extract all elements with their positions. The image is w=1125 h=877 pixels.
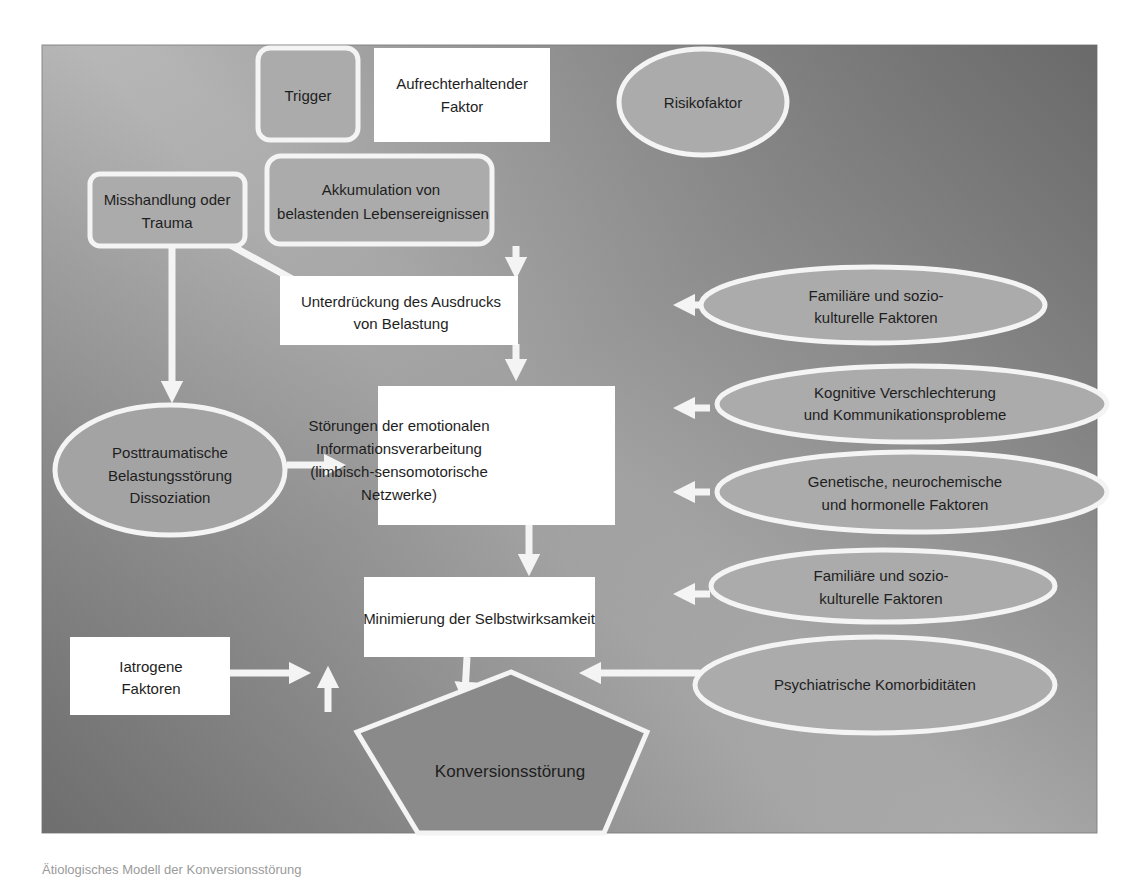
node-familiaere-2: Familiäre und sozio- kulturelle Faktoren bbox=[711, 550, 1055, 622]
unterdrueckung-line1: Unterdrückung des Ausdrucks bbox=[301, 293, 501, 310]
legend-risk-label: Risikofaktor bbox=[664, 94, 742, 111]
akkumulation-line2: belastenden Lebensereignissen bbox=[277, 205, 489, 222]
posttraumatische-line3: Dissoziation bbox=[130, 489, 211, 506]
legend-trigger: Trigger bbox=[258, 48, 358, 140]
genetische-line2: und hormonelle Faktoren bbox=[822, 496, 989, 513]
stoerungen-line1: Störungen der emotionalen bbox=[309, 417, 490, 434]
legend-maintaining-factor: Aufrechterhaltender Faktor bbox=[374, 48, 550, 142]
legend-maintaining-label-line1: Aufrechterhaltender bbox=[396, 75, 528, 92]
legend-trigger-label: Trigger bbox=[285, 87, 332, 104]
familiaere2-line1: Familiäre und sozio- bbox=[813, 567, 948, 584]
node-iatrogene: Iatrogene Faktoren bbox=[70, 637, 230, 715]
psychiatrische-line1: Psychiatrische Komorbiditäten bbox=[774, 676, 976, 693]
posttraumatische-line1: Posttraumatische bbox=[112, 444, 228, 461]
node-minimierung: Minimierung der Selbstwirksamkeit bbox=[363, 577, 596, 657]
iatrogene-line1: Iatrogene bbox=[119, 658, 182, 675]
misshandlung-line2: Trauma bbox=[141, 214, 193, 231]
node-familiaere-1: Familiäre und sozio- kulturelle Faktoren bbox=[701, 267, 1045, 343]
legend-risk-factor: Risikofaktor bbox=[619, 49, 787, 155]
familiaere2-line2: kulturelle Faktoren bbox=[819, 590, 942, 607]
familiaere1-line2: kulturelle Faktoren bbox=[814, 309, 937, 326]
misshandlung-line1: Misshandlung oder bbox=[104, 191, 231, 208]
stoerungen-line3: (limbisch-sensomotorische bbox=[310, 463, 488, 480]
legend-maintaining-label-line2: Faktor bbox=[441, 98, 484, 115]
konversion-label: Konversionsstörung bbox=[435, 762, 585, 781]
node-posttraumatische: Posttraumatische Belastungsstörung Disso… bbox=[55, 405, 285, 535]
node-genetische: Genetische, neurochemische und hormonell… bbox=[717, 452, 1107, 532]
node-kognitive: Kognitive Verschlechterung und Kommunika… bbox=[717, 366, 1107, 442]
genetische-line1: Genetische, neurochemische bbox=[808, 473, 1002, 490]
stoerungen-line4: Netzwerke) bbox=[361, 486, 437, 503]
figure-caption: Ätiologisches Modell der Konversionsstör… bbox=[42, 862, 301, 877]
iatrogene-line2: Faktoren bbox=[121, 680, 180, 697]
kognitive-line1: Kognitive Verschlechterung bbox=[814, 384, 996, 401]
akkumulation-line1: Akkumulation von bbox=[322, 181, 440, 198]
unterdrueckung-line2: von Belastung bbox=[353, 315, 448, 332]
stoerungen-line2: Informationsverarbeitung bbox=[316, 440, 482, 457]
node-akkumulation: Akkumulation von belastenden Lebensereig… bbox=[267, 156, 492, 244]
minimierung-line1: Minimierung der Selbstwirksamkeit bbox=[363, 610, 596, 627]
kognitive-line2: und Kommunikationsprobleme bbox=[804, 406, 1007, 423]
node-psychiatrische: Psychiatrische Komorbiditäten bbox=[695, 637, 1055, 733]
familiaere1-line1: Familiäre und sozio- bbox=[808, 287, 943, 304]
node-unterdrueckung: Unterdrückung des Ausdrucks von Belastun… bbox=[280, 276, 518, 345]
node-misshandlung: Misshandlung oder Trauma bbox=[90, 174, 245, 246]
posttraumatische-line2: Belastungsstörung bbox=[108, 467, 232, 484]
